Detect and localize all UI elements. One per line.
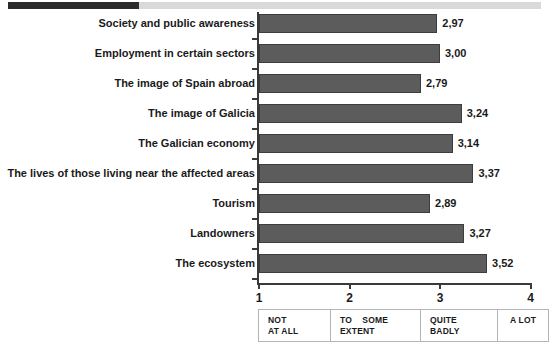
- legend-box-2: TO SOMEEXTENT: [330, 309, 426, 342]
- legend-line-primary: NOT: [259, 315, 335, 326]
- legend-box-4: A LOT: [497, 309, 549, 342]
- legend-box-3: QUITEBADLY: [420, 309, 498, 342]
- legend-line-secondary: BADLY: [421, 326, 497, 337]
- legend-box-1: NOTAT ALL: [258, 309, 336, 342]
- scale-legend: NOTAT ALLTO SOMEEXTENTQUITEBADLYA LOT: [0, 0, 549, 349]
- legend-line-secondary: AT ALL: [259, 326, 335, 337]
- legend-line-primary: A LOT: [498, 315, 548, 326]
- legend-line-primary: QUITE: [421, 315, 497, 326]
- legend-line-secondary: EXTENT: [331, 326, 425, 337]
- chart-screenshot: Society and public awareness2,97Employme…: [0, 0, 549, 349]
- legend-line-primary: TO SOME: [331, 315, 425, 326]
